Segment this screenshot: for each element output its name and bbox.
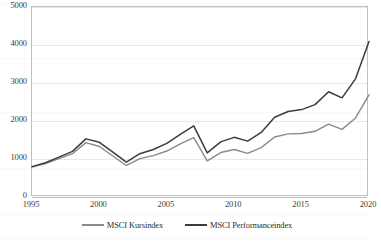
scan-texture-band [0, 238, 374, 239]
y-tick-label-5000: 5000 [0, 1, 27, 10]
scan-texture-band [0, 214, 374, 215]
y-tick-label-4000: 4000 [0, 39, 27, 48]
x-tick-label-2015: 2015 [281, 199, 321, 209]
series-line-msci-kursindex [32, 95, 369, 167]
scan-texture-band [0, 3, 374, 4]
legend-swatch-performanceindex [185, 224, 207, 226]
x-tick-label-1995: 1995 [11, 199, 51, 209]
x-tick-label-2020: 2020 [348, 199, 381, 209]
chart-legend: MSCI Kursindex MSCI Performanceindex [0, 220, 374, 230]
y-tick-label-2000: 2000 [0, 115, 27, 124]
legend-item-kursindex: MSCI Kursindex [82, 220, 163, 230]
series-line-msci-performanceindex [32, 42, 369, 167]
x-tick-label-2000: 2000 [78, 199, 118, 209]
y-tick-label-1000: 1000 [0, 153, 27, 162]
plot-area [31, 6, 368, 196]
legend-swatch-kursindex [82, 224, 104, 226]
y-tick-label-3000: 3000 [0, 77, 27, 86]
legend-label-kursindex: MSCI Kursindex [107, 220, 163, 230]
legend-item-performanceindex: MSCI Performanceindex [185, 220, 292, 230]
legend-label-performanceindex: MSCI Performanceindex [210, 220, 292, 230]
series-layer [32, 7, 369, 197]
x-tick-label-2005: 2005 [146, 199, 186, 209]
x-tick-label-2010: 2010 [213, 199, 253, 209]
